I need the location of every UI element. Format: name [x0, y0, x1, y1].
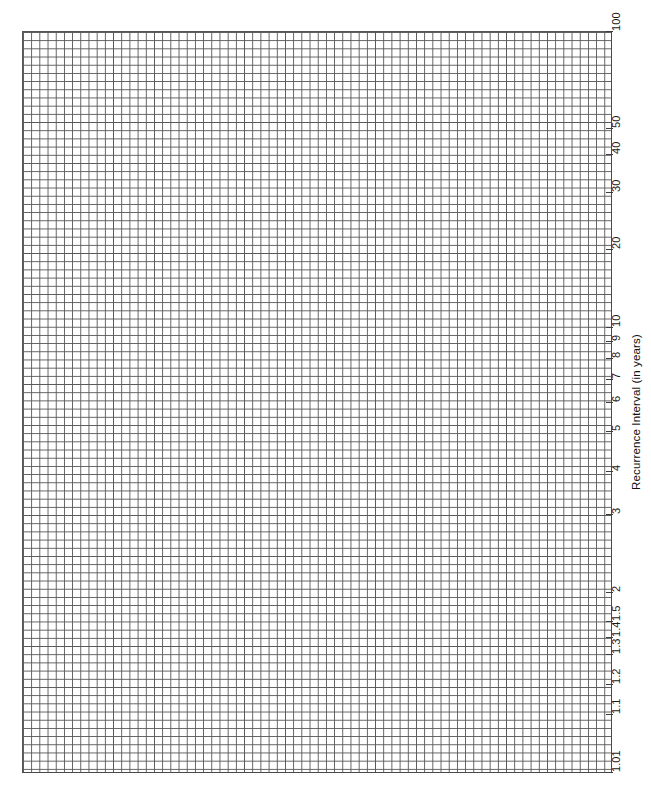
plot-frame-bottom-edge — [22, 772, 612, 773]
axis-title-recurrence-interval: Recurrence Interval (in years) — [630, 334, 642, 490]
axis-tick-label: 100 — [610, 12, 622, 31]
plot-frame-right-edge — [611, 31, 612, 773]
plot-grid — [22, 31, 612, 772]
graph-paper-page: 1005040302010987654321.51.41.31.21.11.01… — [0, 0, 651, 798]
